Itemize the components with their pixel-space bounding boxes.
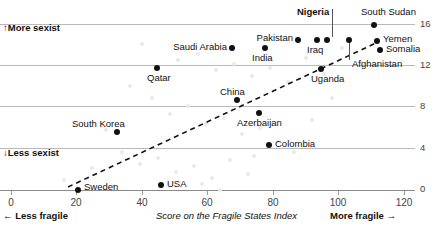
density-dot [174, 170, 178, 174]
data-label-iraq: Iraq [307, 44, 323, 55]
density-dot [218, 188, 222, 192]
density-dot [200, 182, 204, 186]
data-point-qatar[interactable] [154, 65, 160, 71]
density-dot [186, 104, 190, 108]
density-dot [286, 80, 290, 84]
density-dot [168, 112, 172, 116]
density-dot [176, 58, 180, 62]
x-tick-60: 60 [192, 197, 222, 208]
density-dot [128, 84, 132, 88]
data-point-south-korea[interactable] [114, 129, 120, 135]
gridline-8 [0, 106, 415, 107]
density-dot [214, 68, 218, 72]
density-dot [252, 154, 256, 158]
y-tick-0: 0 [420, 184, 425, 194]
density-dot [140, 42, 144, 46]
gridline-16 [0, 24, 415, 25]
trendline [0, 0, 438, 226]
density-dot [210, 176, 214, 180]
x-tick-100: 100 [323, 197, 353, 208]
density-dot [240, 132, 244, 136]
data-label-saudi-arabia: Saudi Arabia [168, 41, 227, 52]
data-label-somalia: Somalia [386, 43, 420, 54]
data-label-china: China [220, 86, 245, 97]
data-point-saudi-arabia[interactable] [229, 45, 235, 51]
data-point-afghanistan[interactable] [346, 37, 352, 43]
density-dot [330, 96, 334, 100]
density-dot [156, 156, 160, 160]
x-tick-0: 0 [0, 197, 26, 208]
data-point-colombia[interactable] [266, 142, 272, 148]
x-tick-120: 120 [389, 197, 419, 208]
right-arrow-icon: → [387, 210, 397, 221]
y-tick-8: 8 [420, 101, 425, 111]
data-label-south-sudan: South Sudan [361, 6, 416, 17]
density-dot [150, 96, 154, 100]
density-dot [292, 150, 296, 154]
density-dot [268, 66, 272, 70]
x-tick-80: 80 [258, 197, 288, 208]
data-label-pakistan: Pakistan [250, 32, 293, 43]
density-dot [340, 46, 344, 50]
annotation-more-fragile: More fragile → [330, 210, 396, 221]
leader-line-nigeria [332, 9, 333, 37]
annotation-less-sexist: ↓Less sexist [3, 147, 59, 158]
data-point-south-sudan[interactable] [371, 22, 377, 28]
density-dot [62, 178, 66, 182]
data-point-usa[interactable] [158, 182, 164, 188]
data-point-sweden[interactable] [75, 187, 81, 193]
scatter-chart: 16 12 8 4 0 0 20 40 60 80 100 120 [0, 0, 438, 226]
density-dot [120, 150, 124, 154]
density-dot [222, 116, 226, 120]
x-tick-20: 20 [61, 197, 91, 208]
left-arrow-icon: ← [3, 210, 13, 221]
y-tick-16: 16 [420, 19, 431, 29]
annotation-more-sexist-label: More sexist [8, 22, 60, 33]
density-dot [246, 172, 250, 176]
annotation-less-fragile-label: Less fragile [15, 210, 68, 221]
data-label-south-korea: South Korea [72, 118, 125, 129]
annotation-more-fragile-label: More fragile [330, 210, 384, 221]
x-tickmark-0 [11, 191, 12, 195]
data-point-azerbaijan[interactable] [256, 110, 262, 116]
x-tickmark-60 [207, 191, 208, 195]
data-label-usa: USA [167, 178, 187, 189]
density-dot [204, 122, 208, 126]
x-tickmark-100 [338, 191, 339, 195]
gridline-4 [0, 148, 415, 149]
x-tickmark-120 [404, 191, 405, 195]
data-point-yemen[interactable] [374, 38, 380, 44]
data-point-pakistan[interactable] [295, 37, 301, 43]
data-label-azerbaijan: Azerbaijan [237, 117, 282, 128]
data-point-somalia[interactable] [377, 47, 383, 53]
data-label-afghanistan: Afghanistan [352, 58, 402, 69]
data-point-nigeria[interactable] [324, 37, 330, 43]
data-label-sweden: Sweden [84, 181, 118, 192]
data-label-colombia: Colombia [275, 138, 315, 149]
data-label-qatar: Qatar [147, 72, 171, 83]
data-label-nigeria: Nigeria [297, 6, 329, 17]
y-tick-4: 4 [420, 143, 425, 153]
density-dot [310, 118, 314, 122]
data-point-india[interactable] [262, 45, 268, 51]
data-label-india: India [252, 52, 273, 63]
density-dot [90, 166, 94, 170]
density-dot [192, 164, 196, 168]
density-dot [250, 74, 254, 78]
x-axis-title: Score on the Fragile States Index [156, 210, 297, 221]
density-dot [304, 56, 308, 60]
density-dot [232, 62, 236, 66]
data-point-uganda[interactable] [318, 66, 324, 72]
density-dot [138, 162, 142, 166]
x-tick-40: 40 [127, 197, 157, 208]
data-label-uganda: Uganda [311, 73, 344, 84]
x-tickmark-40 [142, 191, 143, 195]
density-dot [196, 52, 200, 56]
x-tickmark-80 [273, 191, 274, 195]
data-point-china[interactable] [234, 97, 240, 103]
annotation-less-fragile: ← Less fragile [3, 210, 68, 221]
density-dot [228, 158, 232, 162]
y-tick-12: 12 [420, 60, 431, 70]
data-point-iraq[interactable] [314, 37, 320, 43]
annotation-less-sexist-label: Less sexist [8, 147, 59, 158]
